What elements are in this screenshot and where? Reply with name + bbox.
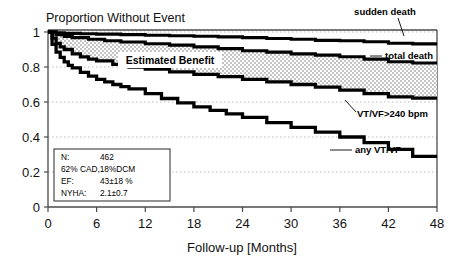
stats-box: N: 462 62% CAD,18%DCM EF: 43±18 % NYHA: … [54, 149, 170, 201]
x-axis-label: Follow-up [Months] [187, 240, 297, 255]
x-tick-48: 48 [430, 216, 444, 231]
x-tick-36: 36 [333, 216, 347, 231]
label-vtvf-240: VT/VF>240 bpm [357, 108, 428, 119]
label-sudden-death: sudden death [354, 6, 416, 17]
x-tick-6: 6 [93, 216, 100, 231]
y-tick-06: 0.6 [22, 95, 40, 110]
estimated-benefit-callout: Estimated Benefit [118, 52, 222, 68]
x-tick-18: 18 [187, 216, 201, 231]
x-tick-24: 24 [235, 216, 249, 231]
chart-title: Proportion Without Event [46, 11, 185, 25]
x-tick-30: 30 [284, 216, 298, 231]
stats-key-3: NYHA: [61, 188, 86, 198]
estimated-benefit-label: Estimated Benefit [126, 54, 215, 66]
stats-key-0: N: [61, 152, 69, 162]
chart-figure: Proportion Without Event 1 0.8 0.6 [0, 0, 466, 261]
stats-value-2: 43±18 % [100, 176, 133, 186]
x-tick-12: 12 [138, 216, 152, 231]
y-tick-04: 0.4 [22, 130, 40, 145]
label-total-death: total death [385, 50, 433, 61]
survival-chart-svg: Proportion Without Event 1 0.8 0.6 [0, 0, 466, 261]
y-tick-1: 1 [33, 25, 40, 40]
y-tick-08: 0.8 [22, 60, 40, 75]
x-tick-0: 0 [44, 216, 51, 231]
stats-key-1: 62% CAD,18%DCM [61, 164, 135, 174]
y-tick-02: 0.2 [22, 165, 40, 180]
y-tick-0: 0 [33, 200, 40, 215]
stats-value-0: 462 [100, 152, 114, 162]
x-tick-42: 42 [381, 216, 395, 231]
stats-value-3: 2.1±0.7 [100, 188, 128, 198]
stats-key-2: EF: [61, 176, 74, 186]
label-any-vtvf: any VT/VF [355, 144, 401, 155]
